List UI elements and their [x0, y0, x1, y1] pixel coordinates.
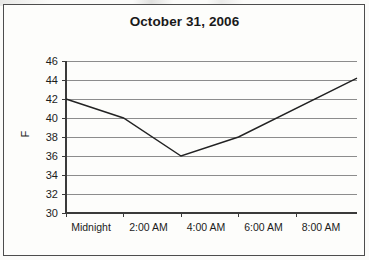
- y-tick-label: 38: [46, 131, 58, 143]
- x-tick-label: 6:00 AM: [244, 221, 283, 233]
- y-tick-label: 32: [46, 188, 58, 200]
- y-tick-label: 44: [46, 74, 58, 86]
- y-tick-label: 34: [46, 169, 58, 181]
- plot-area: 303234363840424446 Midnight2:00 AM4:00 A…: [0, 0, 369, 260]
- y-tick-label: 46: [46, 55, 58, 67]
- x-tick-label: 8:00 AM: [302, 221, 341, 233]
- x-tick-label: 4:00 AM: [187, 221, 226, 233]
- y-tick-label: 36: [46, 150, 58, 162]
- y-tick-label: 40: [46, 112, 58, 124]
- x-tick-label: 2:00 AM: [129, 221, 168, 233]
- chart-screenshot: October 31, 2006 F 303234363840424446 Mi…: [0, 0, 369, 260]
- y-tick-label: 42: [46, 93, 58, 105]
- y-tick-group: 303234363840424446: [46, 55, 66, 219]
- y-tick-label: 30: [46, 207, 58, 219]
- x-tick-group: Midnight2:00 AM4:00 AM6:00 AM8:00 AM: [66, 213, 340, 233]
- x-tick-label: Midnight: [71, 221, 111, 233]
